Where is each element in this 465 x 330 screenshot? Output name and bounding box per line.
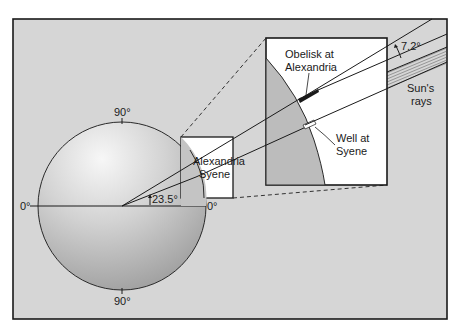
label-syene-small: Syene [199, 168, 230, 180]
label-sun-rays-line2: rays [411, 95, 432, 107]
label-well-line2: Syene [336, 145, 367, 157]
label-alexandria-small: Alexandria [193, 155, 246, 167]
label-latitude-angle: 23.5° [152, 193, 178, 205]
label-equator-left: 0° [20, 200, 31, 212]
eratosthenes-diagram: 90° 90° 0° 0° 23.5° Alexandria Syene Obe… [0, 0, 465, 330]
label-obelisk-line1: Obelisk at [285, 48, 334, 60]
label-equator-right: 0° [207, 200, 218, 212]
label-north-90: 90° [114, 106, 131, 118]
label-obelisk-line2: Alexandria [285, 61, 338, 73]
label-south-90: 90° [114, 295, 131, 307]
label-well-line1: Well at [336, 132, 369, 144]
label-sun-rays-line1: Sun's [407, 82, 435, 94]
label-angle-7-2: 7.2° [401, 40, 421, 52]
